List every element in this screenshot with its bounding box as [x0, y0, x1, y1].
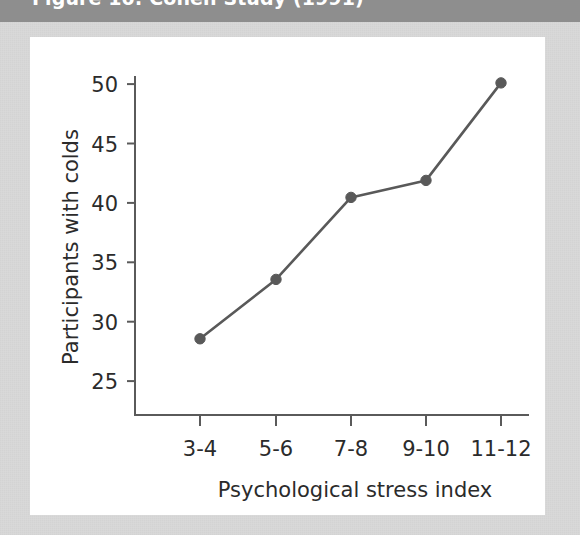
series-polyline	[200, 83, 501, 339]
chart-axes	[135, 77, 528, 415]
x-axis-tick-labels: 3-4 5-6 7-8 9-10 11-12	[183, 437, 532, 461]
x-axis-ticks	[200, 415, 501, 426]
x-axis-title: Psychological stress index	[218, 478, 492, 502]
y-tick-label-3: 40	[91, 192, 118, 216]
data-point-0	[195, 334, 205, 344]
y-tick-label-2: 35	[91, 251, 118, 275]
y-axis-tick-labels: 25 30 35 40 45 50	[91, 73, 118, 394]
x-tick-label-3: 9-10	[402, 437, 450, 461]
y-tick-label-1: 30	[91, 311, 118, 335]
data-point-2	[346, 192, 356, 202]
data-point-1	[271, 274, 281, 284]
y-axis-title: Participants with colds	[59, 129, 83, 365]
figure-caption-band: Figure 10: Cohen Study (1991)	[0, 0, 580, 22]
y-axis-ticks	[127, 84, 135, 381]
y-tick-label-4: 45	[91, 133, 118, 157]
x-tick-label-1: 5-6	[259, 437, 293, 461]
data-series-participants-with-colds	[195, 78, 506, 344]
axis-frame	[135, 77, 528, 415]
x-tick-label-0: 3-4	[183, 437, 217, 461]
y-tick-label-5: 50	[91, 73, 118, 97]
line-chart: 25 30 35 40 45 50 3-4 5-6 7-8 9-10	[30, 37, 545, 515]
data-point-4	[496, 78, 506, 88]
data-point-3	[421, 175, 431, 185]
x-tick-label-4: 11-12	[470, 437, 531, 461]
x-tick-label-2: 7-8	[334, 437, 368, 461]
screenshot-root: Figure 10: Cohen Study (1991) 25 30	[0, 0, 580, 535]
figure-caption-text: Figure 10: Cohen Study (1991)	[32, 0, 364, 9]
chart-card: 25 30 35 40 45 50 3-4 5-6 7-8 9-10	[30, 37, 545, 515]
y-tick-label-0: 25	[91, 370, 118, 394]
